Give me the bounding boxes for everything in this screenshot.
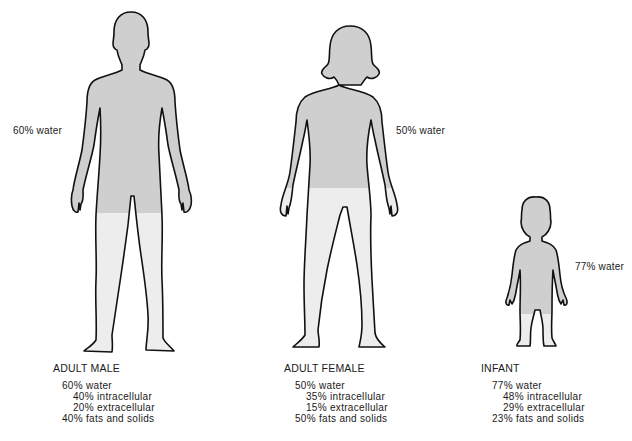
adult-female-figure bbox=[270, 0, 420, 368]
adult-male-water-total: 60% water bbox=[53, 380, 155, 391]
adult-male-title: ADULT MALE bbox=[53, 362, 155, 374]
adult-female-caption: ADULT FEMALE 50% water 35% intracellular… bbox=[284, 362, 388, 424]
adult-female-fats-solids: 50% fats and solids bbox=[284, 413, 388, 424]
adult-male-figure bbox=[60, 0, 210, 373]
adult-male-solids-region bbox=[60, 213, 210, 373]
infant-extracellular: 29% extracellular bbox=[481, 402, 585, 413]
infant-water-region bbox=[500, 190, 580, 314]
infant-caption: INFANT 77% water 48% intracellular 29% e… bbox=[481, 362, 585, 424]
adult-female-extracellular: 15% extracellular bbox=[284, 402, 388, 413]
adult-female-title: ADULT FEMALE bbox=[284, 362, 388, 374]
adult-male-caption: ADULT MALE 60% water 40% intracellular 2… bbox=[53, 362, 155, 424]
adult-female-water-total: 50% water bbox=[284, 380, 388, 391]
infant-water-total: 77% water bbox=[481, 380, 585, 391]
adult-male-water-label: 60% water bbox=[13, 125, 62, 136]
infant-title: INFANT bbox=[481, 362, 585, 374]
infant-intracellular: 48% intracellular bbox=[481, 391, 585, 402]
adult-female-water-label: 50% water bbox=[396, 125, 445, 136]
infant-figure bbox=[500, 190, 580, 354]
infant-solids-region bbox=[500, 314, 580, 354]
adult-male-intracellular: 40% intracellular bbox=[53, 391, 155, 402]
adult-female-solids-region bbox=[270, 188, 420, 368]
adult-male-fats-solids: 40% fats and solids bbox=[53, 413, 155, 424]
infant-fats-solids: 23% fats and solids bbox=[481, 413, 585, 424]
infant-water-label: 77% water bbox=[575, 261, 624, 272]
adult-female-intracellular: 35% intracellular bbox=[284, 391, 388, 402]
adult-male-extracellular: 20% extracellular bbox=[53, 402, 155, 413]
adult-female-water-region bbox=[270, 0, 420, 188]
